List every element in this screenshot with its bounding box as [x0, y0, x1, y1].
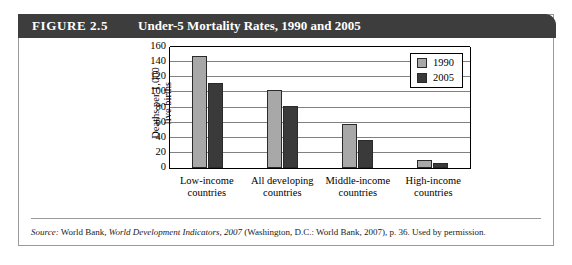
source-publisher: World Bank,	[61, 227, 107, 237]
bar-1990	[417, 160, 432, 168]
y-axis-tick-label: 100	[150, 86, 166, 97]
legend-label: 1990	[433, 58, 454, 69]
chart-legend: 19902005	[410, 53, 463, 88]
x-axis-category-label: High-income countries	[396, 175, 472, 199]
y-axis-tick-label: 120	[150, 71, 166, 82]
y-axis-tick-label: 140	[150, 56, 166, 67]
bar-1990	[192, 56, 207, 168]
source-divider	[31, 218, 541, 219]
figure-frame: FIGURE 2.5 Under-5 Mortality Rates, 1990…	[18, 14, 554, 246]
legend-swatch	[417, 73, 427, 83]
y-axis-tick-label: 60	[156, 116, 167, 127]
y-axis-tick-label: 80	[156, 101, 167, 112]
legend-item: 2005	[417, 73, 454, 84]
legend-swatch	[417, 58, 427, 68]
bar-2005	[433, 163, 448, 168]
x-axis-category-label: Middle-income countries	[320, 175, 396, 199]
bar-group	[170, 47, 245, 168]
legend-item: 1990	[417, 58, 454, 69]
x-axis-labels: Low-income countriesAll developing count…	[169, 175, 471, 203]
bar-2005	[208, 83, 223, 168]
chart-area: Deaths per 1,000 live births 02040608010…	[19, 39, 555, 219]
y-axis-tick-label: 0	[161, 162, 166, 173]
bar-2005	[283, 106, 298, 168]
source-prefix: Source:	[31, 227, 59, 237]
source-note: Source: World Bank, World Development In…	[31, 226, 541, 238]
bar-1990	[267, 90, 282, 168]
x-axis-category-label: All developing countries	[245, 175, 321, 199]
legend-label: 2005	[433, 73, 454, 84]
bar-1990	[342, 124, 357, 168]
x-axis-category-label: Low-income countries	[169, 175, 245, 199]
figure-header: FIGURE 2.5 Under-5 Mortality Rates, 1990…	[18, 14, 556, 38]
figure-number-label: FIGURE 2.5	[32, 18, 108, 34]
y-axis-tick-label: 40	[156, 132, 167, 143]
figure-title: Under-5 Mortality Rates, 1990 and 2005	[138, 18, 361, 34]
y-axis-tick-label: 160	[150, 40, 166, 51]
bar-group	[245, 47, 320, 168]
source-publication-detail: (Washington, D.C.: World Bank, 2007), p.…	[244, 227, 486, 237]
bar-group	[320, 47, 395, 168]
source-work-title: World Development Indicators, 2007	[109, 227, 242, 237]
y-axis-tick-label: 20	[156, 147, 167, 158]
plot-wrapper: 020406080100120140160 Low-income countri…	[141, 47, 471, 187]
bar-2005	[358, 140, 373, 168]
